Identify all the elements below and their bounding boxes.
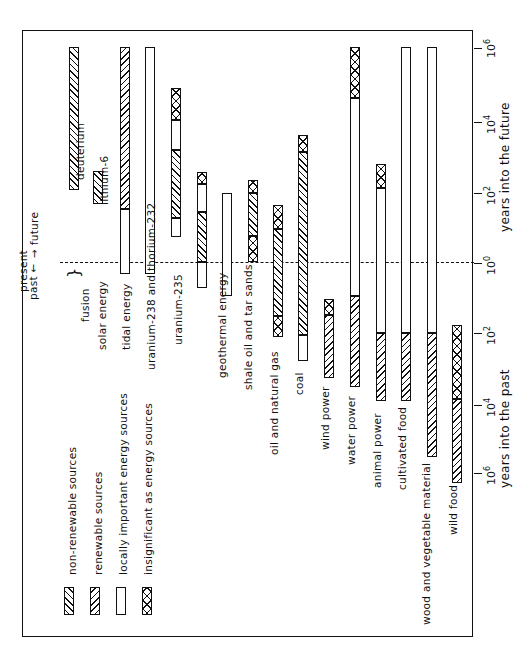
present-label: present bbox=[17, 250, 29, 292]
bar-segment-local bbox=[171, 218, 181, 237]
bar-segment-insignificant bbox=[171, 88, 181, 120]
category-label: deuterium bbox=[74, 123, 86, 180]
tick-past-6 bbox=[474, 473, 482, 474]
bar-segment-local bbox=[376, 188, 386, 333]
fusion-brace: } bbox=[64, 268, 83, 278]
tick-label-future-4: 104 bbox=[483, 115, 498, 134]
bar-segment-nonrenewable bbox=[298, 152, 308, 335]
tick-label-0: 100 bbox=[483, 256, 498, 275]
bar-segment-insignificant bbox=[248, 236, 258, 262]
bar-segment-local bbox=[171, 120, 181, 150]
bar-segment-nonrenewable bbox=[171, 150, 181, 218]
bar-segment-nonrenewable bbox=[273, 229, 283, 316]
category-label: animal power bbox=[371, 413, 383, 488]
legend-label-local: locally important energy sources bbox=[117, 393, 129, 575]
tick-label-future-2: 102 bbox=[483, 186, 498, 205]
category-label: solar energy bbox=[96, 281, 108, 350]
future-label: → future bbox=[28, 212, 40, 258]
bar-segment-renewable bbox=[120, 47, 130, 209]
bar-segment-local bbox=[427, 47, 437, 333]
tick-future-2 bbox=[474, 193, 482, 194]
category-label: wild food bbox=[447, 485, 459, 535]
tick-0 bbox=[474, 263, 482, 264]
bar-segment-local bbox=[401, 47, 411, 333]
category-label: shale oil and tar sands bbox=[242, 264, 254, 390]
category-label: tidal energy bbox=[120, 283, 132, 350]
bar-segment-nonrenewable bbox=[248, 193, 258, 236]
bar-segment-insignificant bbox=[298, 135, 308, 152]
bar-segment-renewable bbox=[376, 333, 386, 401]
bar-segment-insignificant bbox=[273, 205, 283, 229]
tick-label-past-4: 104 bbox=[483, 398, 498, 417]
tick-label-future-6: 106 bbox=[483, 39, 498, 58]
past-axis-title: years into the past bbox=[498, 369, 512, 488]
bar-segment-insignificant bbox=[197, 172, 207, 184]
bar-segment-insignificant bbox=[452, 325, 462, 399]
future-axis-title: years into the future bbox=[498, 102, 512, 232]
tick-future-4 bbox=[474, 122, 482, 123]
category-label: oil and natural gas bbox=[268, 351, 280, 455]
category-label: wood and vegetable material bbox=[420, 463, 432, 625]
bar-segment-insignificant bbox=[350, 47, 360, 98]
category-label: uranium-238 and thorium-232 bbox=[145, 203, 157, 370]
fusion-label: fusion bbox=[79, 288, 91, 322]
legend-label-insignificant: insignificant as energy sources bbox=[142, 403, 154, 575]
bar-segment-renewable bbox=[427, 333, 437, 457]
bar-segment-local bbox=[197, 262, 207, 288]
bar-segment-insignificant bbox=[376, 164, 386, 188]
category-label: coal bbox=[293, 372, 305, 395]
tick-past-4 bbox=[474, 405, 482, 406]
bar-segment-local bbox=[298, 335, 308, 361]
category-label: lithium-6 bbox=[98, 155, 110, 205]
tick-past-2 bbox=[474, 333, 482, 334]
bar-segment-renewable bbox=[401, 333, 411, 401]
tick-label-past-6: 106 bbox=[483, 466, 498, 485]
category-label: cultivated food bbox=[396, 407, 408, 490]
legend-swatch-local bbox=[116, 587, 126, 615]
bar-segment-nonrenewable bbox=[197, 212, 207, 262]
bar-segment-insignificant bbox=[273, 316, 283, 337]
category-label: wind power bbox=[319, 386, 331, 450]
bar-segment-renewable bbox=[452, 399, 462, 483]
category-label: uranium-235 bbox=[172, 274, 184, 345]
bar-segment-local bbox=[350, 98, 360, 296]
bar-segment-renewable bbox=[324, 315, 334, 378]
bar-segment-insignificant bbox=[248, 180, 258, 193]
tick-label-past-2: 102 bbox=[483, 326, 498, 345]
category-label: water power bbox=[345, 396, 357, 465]
bar-segment-local bbox=[197, 184, 207, 212]
bar-segment-insignificant bbox=[324, 299, 334, 315]
bar-segment-local bbox=[120, 209, 130, 274]
tick-future-6 bbox=[474, 48, 482, 49]
legend-swatch-nonrenewable bbox=[64, 587, 74, 615]
category-label: geothermal energy bbox=[216, 272, 228, 378]
legend-label-renewable: renewable sources bbox=[92, 471, 104, 575]
legend-label-nonrenewable: non-renewable sources bbox=[66, 447, 78, 575]
legend-swatch-renewable bbox=[90, 587, 100, 615]
bar-segment-renewable bbox=[350, 296, 360, 387]
legend-swatch-insignificant bbox=[142, 587, 152, 615]
